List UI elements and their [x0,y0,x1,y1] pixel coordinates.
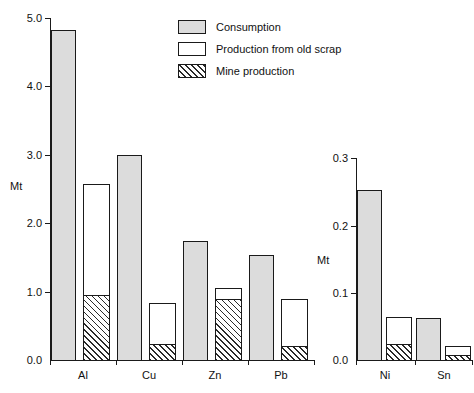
left-xlabel-cu: Cu [124,370,174,381]
left-ytick-label-3: 3.0 [2,150,42,161]
right-xlabel-ni: Ni [360,370,410,381]
bar-zn-mine [215,299,242,361]
bar-zn-consumption [183,241,208,361]
left-chart-panel: 5.0 4.0 3.0 2.0 1.0 0.0 Mt Al Cu Zn [0,0,320,393]
right-ytick-02 [351,226,356,227]
right-ytick-03 [351,158,356,159]
bar-sn-mine [445,355,471,361]
left-ytick-label-4: 4.0 [2,81,42,92]
right-ytick-01 [351,293,356,294]
left-ytick-label-2: 2.0 [2,218,42,229]
bar-pb-consumption [249,255,274,361]
right-xtick-0 [356,361,357,365]
left-xtick-2 [182,361,183,365]
left-xtick-0 [50,361,51,365]
left-ytick-2 [45,223,50,224]
figure-root: Consumption Production from old scrap Mi… [0,0,474,393]
left-ytick-label-5: 5.0 [2,13,42,24]
right-y-axis-title: Mt [317,255,329,266]
right-xtick-1 [415,361,416,365]
left-xtick-3 [248,361,249,365]
right-xlabel-sn: Sn [419,370,469,381]
bar-cu-mine [149,344,176,361]
bar-cu-consumption [117,155,142,361]
left-xlabel-zn: Zn [190,370,240,381]
right-ytick-label-00: 0.0 [308,355,348,366]
bar-sn-consumption [416,318,441,361]
bar-al-mine [83,295,110,361]
right-xtick-2 [472,361,473,365]
left-ytick-1 [45,292,50,293]
left-ytick-5 [45,18,50,19]
left-xlabel-pb: Pb [256,370,306,381]
left-ytick-4 [45,86,50,87]
left-ytick-3 [45,155,50,156]
bar-ni-mine [386,344,412,361]
bar-al-consumption [51,30,76,361]
right-ytick-label-02: 0.2 [308,221,348,232]
left-ytick-label-0: 0.0 [2,355,42,366]
bar-ni-consumption [357,190,382,361]
left-xtick-1 [116,361,117,365]
bar-pb-mine [281,346,308,361]
left-xlabel-al: Al [58,370,108,381]
right-ytick-label-01: 0.1 [308,288,348,299]
left-ytick-label-1: 1.0 [2,287,42,298]
right-ytick-label-03: 0.3 [308,153,348,164]
right-chart-panel: 0.3 0.2 0.1 0.0 Mt Ni Sn [320,0,474,393]
left-y-axis-title: Mt [10,181,22,192]
